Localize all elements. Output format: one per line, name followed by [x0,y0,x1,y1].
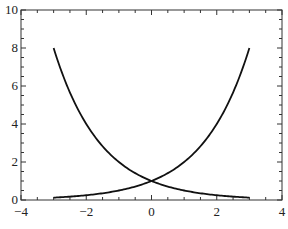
y-tick-label: 6 [12,78,19,93]
x-tick-label: 2 [214,204,221,219]
y-tick-label: 10 [5,2,18,17]
y-axis-tick-labels: 0246810 [5,2,19,207]
y-tick-label: 4 [12,116,19,131]
x-tick-label: 0 [148,204,155,219]
chart: −4−2024 0246810 [0,0,288,229]
y-tick-label: 8 [12,40,19,55]
axis-ticks [21,10,282,200]
y-tick-label: 0 [12,192,19,207]
series-line-decay [54,48,250,198]
plot-frame [21,10,282,200]
y-tick-label: 2 [12,154,19,169]
series-line-growth [54,48,250,198]
x-axis-tick-labels: −4−2024 [14,204,286,219]
x-tick-label: −2 [79,204,93,219]
data-series [54,48,250,198]
x-tick-label: 4 [279,204,286,219]
